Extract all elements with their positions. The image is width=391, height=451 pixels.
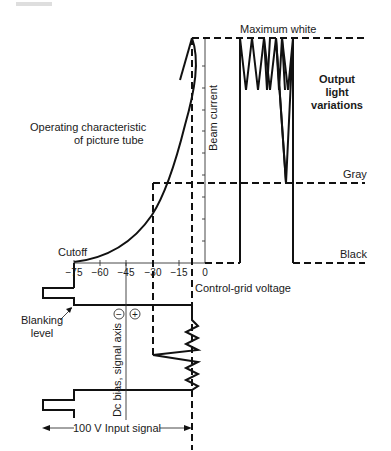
output-label-line2: light xyxy=(325,86,349,98)
gray-label: Gray xyxy=(343,168,367,180)
svg-text:−45: −45 xyxy=(118,267,135,278)
output-label-line1: Output xyxy=(319,73,355,85)
svg-text:+: + xyxy=(132,309,138,320)
max-white-label: Maximum white xyxy=(240,23,316,35)
input-signal-label: 100 V Input signal xyxy=(73,422,161,434)
characteristic-curve-top xyxy=(180,38,192,80)
crt-transfer-diagram: − + Maximum white Gray Black Output ligh… xyxy=(0,0,391,451)
svg-text:−60: −60 xyxy=(92,267,109,278)
curve-label-line2: of picture tube xyxy=(74,134,144,146)
dc-bias-label: Dc bias, signal axis xyxy=(111,322,123,417)
blanking-label-line1: Blanking xyxy=(21,314,63,326)
beam-current-label: Beam current xyxy=(207,85,219,151)
characteristic-curve xyxy=(74,38,196,262)
svg-text:−30: −30 xyxy=(145,267,162,278)
cutoff-label: Cutoff xyxy=(58,246,88,258)
blanking-label-line2: level xyxy=(31,327,54,339)
control-grid-voltage-label: Control-grid voltage xyxy=(195,282,291,294)
minus-symbol: − xyxy=(114,309,124,320)
svg-text:0: 0 xyxy=(202,267,208,278)
curve-label-line1: Operating characteristic xyxy=(30,121,147,133)
svg-text:−75: −75 xyxy=(66,267,83,278)
svg-text:−: − xyxy=(116,309,122,320)
arrow-left-icon xyxy=(42,425,50,431)
x-tick-labels: −75 −60 −45 −30 −15 0 xyxy=(66,267,209,278)
arrowhead-icon xyxy=(66,307,72,313)
svg-text:−15: −15 xyxy=(171,267,188,278)
black-label: Black xyxy=(340,248,367,260)
arrow-right-icon xyxy=(184,425,192,431)
plus-symbol: + xyxy=(130,309,140,320)
output-label-line3: variations xyxy=(311,99,363,111)
